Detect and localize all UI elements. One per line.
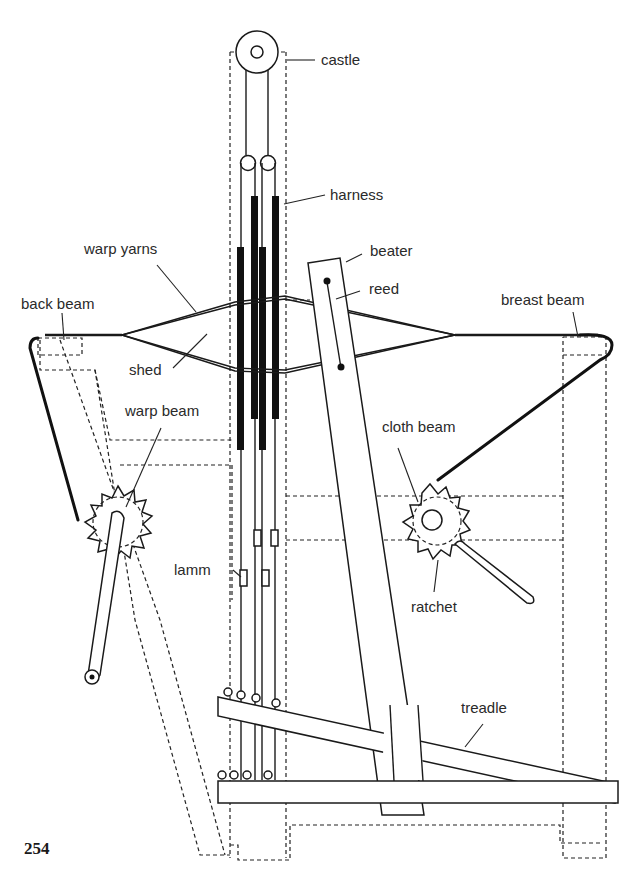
page-number: 254: [24, 839, 50, 858]
lamms: [240, 530, 278, 586]
label-lamm: lamm: [174, 561, 211, 578]
warp-beam: [85, 486, 152, 684]
harness-frames: [237, 163, 279, 780]
labels: castle harness warp yarns beater reed ba…: [21, 51, 584, 858]
label-beater: beater: [370, 242, 413, 259]
castle-pulley: [236, 31, 278, 171]
cloth-beam: [403, 484, 534, 603]
label-shed: shed: [129, 361, 162, 378]
loom-diagram: castle harness warp yarns beater reed ba…: [0, 0, 636, 881]
label-warp-yarns: warp yarns: [83, 240, 157, 257]
label-back-beam: back beam: [21, 295, 94, 312]
label-treadle: treadle: [461, 699, 507, 716]
label-reed: reed: [369, 280, 399, 297]
treadle-base: [218, 688, 618, 803]
label-harness: harness: [330, 186, 383, 203]
label-ratchet: ratchet: [411, 598, 458, 615]
label-breast-beam: breast beam: [501, 291, 584, 308]
label-cloth-beam: cloth beam: [382, 418, 455, 435]
label-warp-beam: warp beam: [124, 402, 199, 419]
label-castle: castle: [321, 51, 360, 68]
